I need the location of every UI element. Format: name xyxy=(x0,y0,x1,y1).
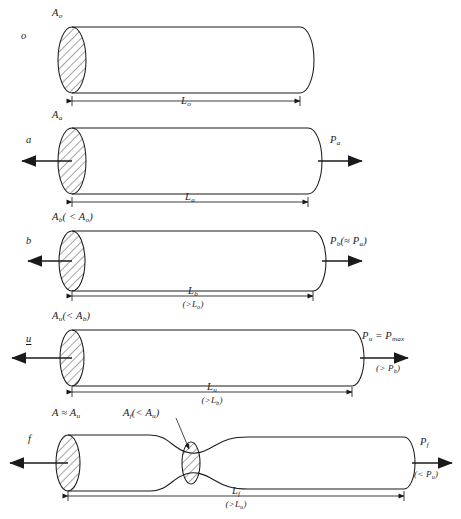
area-label-f: A ≈ Au xyxy=(52,408,80,420)
neck-cross-section-face-f xyxy=(182,442,200,484)
load-label-u: Pu = Pmax xyxy=(362,331,404,343)
length-label-Lf: Lf xyxy=(232,486,240,498)
length-note-Lu: (>Lb) xyxy=(201,396,222,406)
load-label-f: Pf xyxy=(420,437,429,449)
length-label-Lu: Lu xyxy=(207,382,217,394)
state-label-f: f xyxy=(28,434,31,445)
neck-leader-line xyxy=(176,418,189,449)
figure-canvas: Ao o Lo Aa a Pa La Ab( < Ao) b Pb(≈ Pa) … xyxy=(0,0,461,519)
load-label-a: Pa xyxy=(330,135,340,147)
area-label-o: Ao xyxy=(52,8,62,20)
area-label-b: Ab( < Ao) xyxy=(52,212,93,224)
specimen-diagram xyxy=(0,0,461,519)
length-note-Lb: (>Lo) xyxy=(182,300,203,310)
area-label-u: Au(< Ab) xyxy=(52,311,90,323)
state-label-o: o xyxy=(21,31,26,42)
state-label-a: a xyxy=(26,135,31,146)
length-label-La: La xyxy=(185,192,195,204)
length-label-Lb: Lb xyxy=(188,286,198,298)
length-label-Lo: Lo xyxy=(181,96,191,108)
state-label-u: u xyxy=(26,334,31,345)
load-note-f: (< Pu) xyxy=(414,470,438,480)
length-note-Lf: (>Lu) xyxy=(225,500,246,510)
area-label-a: Aa xyxy=(52,110,62,122)
load-label-b: Pb(≈ Pa) xyxy=(330,236,367,248)
neck-area-label-f: Af(< Au) xyxy=(123,408,160,420)
state-label-b: b xyxy=(26,236,31,247)
cross-section-face-o xyxy=(58,27,86,93)
load-note-u: (> Pb) xyxy=(376,364,400,374)
